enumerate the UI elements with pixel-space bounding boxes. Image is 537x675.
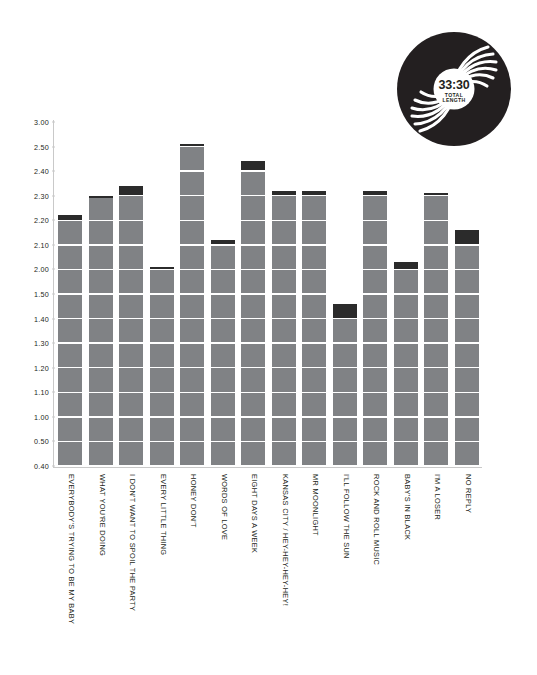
x-axis-label: NO REPLY	[464, 474, 473, 513]
bar-cap-segment	[272, 191, 296, 196]
bar-cap-segment	[363, 191, 387, 196]
x-axis-labels: EVERYBODY'S TRYING TO BE MY BABYWHAT YOU…	[55, 474, 482, 654]
bar[interactable]	[363, 191, 387, 466]
y-axis-tick-mark	[52, 416, 55, 417]
y-axis-tick-mark	[52, 367, 55, 368]
bar[interactable]	[89, 196, 113, 466]
bar[interactable]	[211, 240, 235, 466]
bar-cap-segment	[455, 230, 479, 245]
y-axis-tick-label: 2.50	[34, 142, 49, 151]
y-axis-tick-mark	[52, 343, 55, 344]
x-axis-label: BABY'S IN BLACK	[403, 474, 412, 540]
bar[interactable]	[58, 215, 82, 466]
y-axis-tick-label: 2.00	[34, 265, 49, 274]
bar[interactable]	[333, 304, 357, 466]
bar[interactable]	[302, 191, 326, 466]
y-axis-tick-mark	[52, 122, 55, 123]
bar-cap-segment	[180, 144, 204, 147]
y-axis-tick-mark	[52, 392, 55, 393]
bar-cap-segment	[424, 193, 448, 195]
y-axis-tick-label: 2.20	[34, 216, 49, 225]
y-axis-tick-mark	[52, 146, 55, 147]
chart-canvas: 33:30 TOTAL LENGTH 3.002.502.402.302.202…	[0, 0, 537, 675]
y-axis-tick-mark	[52, 441, 55, 442]
x-axis-label: EVERYBODY'S TRYING TO BE MY BABY	[67, 474, 76, 624]
y-axis-tick-label: 1.10	[34, 388, 49, 397]
y-axis-tick-mark	[52, 318, 55, 319]
y-axis-tick-mark	[52, 171, 55, 172]
svg-text:LENGTH: LENGTH	[442, 97, 465, 103]
y-axis-tick-label: 1.30	[34, 339, 49, 348]
bar-cap-segment	[89, 196, 113, 198]
bar-cap-segment	[302, 191, 326, 196]
y-axis-tick-label: 0.50	[34, 437, 49, 446]
y-axis-tick-label: 3.00	[34, 118, 49, 127]
x-axis-line	[53, 467, 482, 468]
y-axis-tick-mark	[52, 195, 55, 196]
x-axis-label: EIGHT DAYS A WEEK	[250, 474, 259, 553]
x-axis-label: I DON'T WANT TO SPOIL THE PARTY	[128, 474, 137, 611]
bar[interactable]	[119, 186, 143, 466]
y-axis-tick-label: 1.40	[34, 314, 49, 323]
y-axis-tick-label: 1.00	[34, 412, 49, 421]
bar[interactable]	[272, 191, 296, 466]
x-axis-label: ROCK AND ROLL MUSIC	[372, 474, 381, 565]
y-axis-tick-label: 2.40	[34, 167, 49, 176]
bar-cap-segment	[150, 267, 174, 269]
y-axis-tick-label: 0.40	[34, 462, 49, 471]
y-axis-tick-mark	[52, 220, 55, 221]
y-axis-tick-mark	[52, 294, 55, 295]
y-axis-tick-label: 2.30	[34, 191, 49, 200]
bar[interactable]	[180, 144, 204, 466]
y-axis-tick-mark	[52, 244, 55, 245]
bar-cap-segment	[211, 240, 235, 245]
x-axis-label: WHAT YOU'RE DOING	[98, 474, 107, 556]
y-axis-tick-mark	[52, 466, 55, 467]
bar[interactable]	[455, 230, 479, 466]
y-axis-tick-label: 1.20	[34, 363, 49, 372]
y-axis-tick-mark	[52, 269, 55, 270]
y-axis-tick-label: 2.10	[34, 240, 49, 249]
bar-series	[55, 122, 482, 466]
x-axis-label: MR MOONLIGHT	[311, 474, 320, 536]
x-axis-label: HONEY DON'T	[189, 474, 198, 528]
x-axis-label: I'LL FOLLOW THE SUN	[342, 474, 351, 559]
plot-area: 3.002.502.402.302.202.102.001.501.401.30…	[55, 122, 482, 466]
y-axis-tick-label: 1.50	[34, 290, 49, 299]
x-axis-label: WORDS OF LOVE	[220, 474, 229, 540]
x-axis-label: EVERY LITTLE THING	[159, 474, 168, 555]
bar-cap-segment	[394, 262, 418, 269]
bar[interactable]	[424, 193, 448, 466]
svg-text:33:30: 33:30	[439, 78, 470, 92]
vinyl-center-label: 33:30 TOTAL LENGTH	[439, 78, 470, 104]
x-axis-label: KANSAS CITY / HEY-HEY-HEY-HEY!	[281, 474, 290, 606]
bar[interactable]	[394, 262, 418, 466]
bar-cap-segment	[58, 215, 82, 220]
bar[interactable]	[241, 161, 265, 466]
bar[interactable]	[150, 267, 174, 466]
bar-cap-segment	[333, 304, 357, 319]
x-axis-label: I'M A LOSER	[433, 474, 442, 520]
bar-cap-segment	[241, 161, 265, 171]
bar-cap-segment	[119, 186, 143, 196]
